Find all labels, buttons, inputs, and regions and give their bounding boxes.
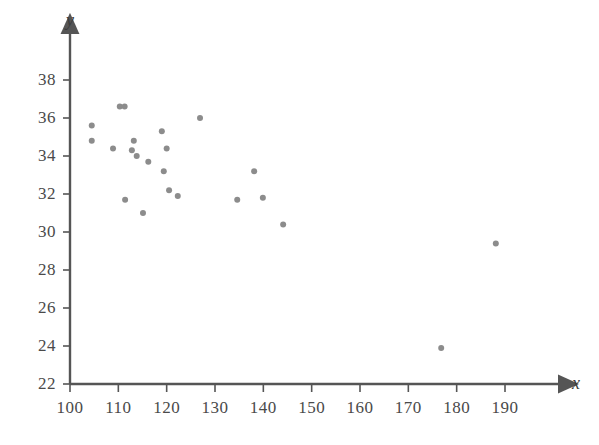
x-tick-label: 100 — [57, 398, 84, 418]
data-point — [140, 210, 146, 216]
data-point — [145, 159, 151, 165]
x-tick-label: 170 — [395, 398, 422, 418]
y-tick-label: 38 — [38, 70, 56, 90]
x-tick-label: 130 — [202, 398, 229, 418]
y-tick-label: 30 — [38, 222, 56, 242]
x-tick-label: 160 — [347, 398, 374, 418]
data-point — [438, 345, 444, 351]
data-point — [159, 128, 165, 134]
x-tick-label: 180 — [443, 398, 470, 418]
data-point — [129, 147, 135, 153]
y-tick-label: 24 — [38, 336, 56, 356]
x-tick-label: 140 — [250, 398, 277, 418]
data-point — [131, 138, 137, 144]
x-tick-label: 110 — [105, 398, 131, 418]
data-point — [234, 197, 240, 203]
data-point — [89, 138, 95, 144]
axis-group — [70, 32, 560, 384]
scatter-plot-figure: 222426283032343638 100110120130140150160… — [0, 0, 599, 445]
y-tick-label: 32 — [38, 184, 56, 204]
data-point — [280, 221, 286, 227]
data-point — [161, 168, 167, 174]
data-point — [122, 197, 128, 203]
data-point — [260, 195, 266, 201]
plot-canvas — [0, 0, 599, 445]
y-tick-label: 36 — [38, 108, 56, 128]
data-points-group — [89, 104, 499, 351]
x-tick-label: 150 — [298, 398, 325, 418]
data-point — [134, 153, 140, 159]
y-tick-label: 34 — [38, 146, 56, 166]
x-axis-label: x — [572, 373, 580, 394]
data-point — [493, 240, 499, 246]
data-point — [197, 115, 203, 121]
data-point — [122, 104, 128, 110]
y-tick-label: 22 — [38, 374, 56, 394]
data-point — [164, 145, 170, 151]
data-point — [166, 187, 172, 193]
data-point — [251, 168, 257, 174]
y-tick-label: 28 — [38, 260, 56, 280]
data-point — [110, 145, 116, 151]
data-point — [175, 193, 181, 199]
x-tick-label: 120 — [153, 398, 180, 418]
y-axis-label: y — [66, 10, 74, 31]
y-tick-label: 26 — [38, 298, 56, 318]
x-tick-label: 190 — [492, 398, 519, 418]
data-point — [89, 123, 95, 129]
